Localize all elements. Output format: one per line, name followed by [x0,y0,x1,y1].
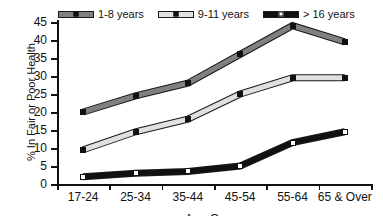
y-tick-label: 0 [40,177,47,191]
data-point [237,163,243,169]
legend-label-1: 9-11 years [198,9,249,20]
legend-label-0: 1-8 years [98,9,144,20]
legend-entry-0: 1-8 years [58,9,144,20]
legend-swatch-9-11-years [158,11,194,18]
x-category-label: 25-34 [120,190,151,204]
data-point [133,129,139,135]
legend-swatch-over-16-years [263,11,299,18]
y-tick-label: 30 [34,69,47,83]
data-point [80,109,86,115]
data-point [342,39,348,45]
chart-figure: 1-8 years 9-11 years > 16 years % In Fai… [0,0,383,216]
y-tick-label: 20 [34,105,47,119]
chart-legend: 1-8 years 9-11 years > 16 years [58,6,378,22]
plot-area: 051015202530354045 17-2425-3435-4445-545… [57,22,371,184]
legend-entry-2: > 16 years [263,9,355,20]
data-point [290,140,296,146]
x-tick [57,184,59,190]
data-point [342,75,348,81]
data-point [80,174,86,180]
series-line-0 [83,26,345,112]
legend-label-2: > 16 years [303,9,355,20]
x-tick [266,184,268,190]
data-point [185,168,191,174]
x-category-label: 17-24 [68,190,99,204]
data-point [133,170,139,176]
data-point [185,116,191,122]
data-point [342,129,348,135]
y-tick-label: 45 [34,15,47,29]
data-point [290,23,296,29]
y-tick-label: 10 [34,141,47,155]
x-tick [162,184,164,190]
y-tick-label: 35 [34,51,47,65]
legend-swatch-1-8-years [58,11,94,18]
data-point [80,147,86,153]
data-point [133,93,139,99]
series-lines [57,22,371,184]
data-point [237,91,243,97]
data-point [185,80,191,86]
data-point [290,75,296,81]
y-tick-label: 40 [34,33,47,47]
data-point [237,51,243,57]
x-category-label: 35-44 [172,190,203,204]
x-category-label: 45-54 [225,190,256,204]
x-tick [214,184,216,190]
y-tick-label: 15 [34,123,47,137]
legend-entry-1: 9-11 years [158,9,249,20]
x-axis-title: Age Group [57,212,371,216]
x-category-label: 55-64 [277,190,308,204]
x-tick [109,184,111,190]
y-tick-label: 5 [40,159,47,173]
x-category-label: 65 & Over [318,190,372,204]
y-tick-label: 25 [34,87,47,101]
